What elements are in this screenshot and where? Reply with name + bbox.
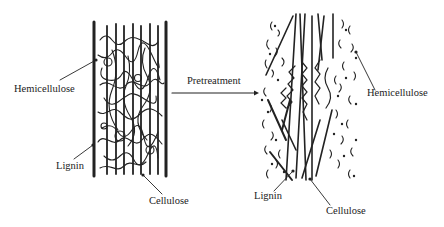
- pretreatment-arrow: [172, 91, 259, 96]
- pretreated-biomass-structure: [261, 14, 357, 180]
- diagram-canvas: [0, 0, 444, 227]
- wavy-chains: [281, 60, 331, 120]
- cellulose-fibrils-exposed: [266, 14, 333, 180]
- label-hemicellulose-after: Hemicellulose: [367, 88, 428, 99]
- label-lignin-after: Lignin: [254, 191, 282, 202]
- label-hemicellulose-before: Hemicellulose: [14, 84, 75, 95]
- intact-biomass-structure: [94, 22, 166, 176]
- label-cellulose-after: Cellulose: [326, 206, 366, 217]
- label-lignin-before: Lignin: [56, 161, 84, 172]
- label-pretreatment: Pretreatment: [187, 76, 241, 87]
- label-cellulose-before: Cellulose: [149, 196, 189, 207]
- cellulose-fibrils-intact: [107, 24, 158, 174]
